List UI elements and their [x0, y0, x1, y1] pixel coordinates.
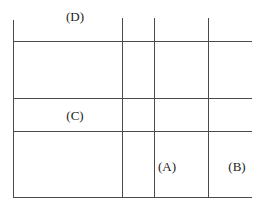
vertical-line-1 [13, 20, 14, 198]
vertical-line-4 [208, 18, 209, 198]
grid-diagram: (D) (C) (A) (B) [0, 0, 268, 208]
label-d: (D) [66, 10, 84, 23]
horizontal-line-4 [13, 197, 252, 198]
vertical-line-2 [122, 18, 123, 198]
label-a: (A) [158, 160, 176, 173]
horizontal-line-2 [13, 98, 252, 99]
label-b: (B) [228, 160, 245, 173]
vertical-line-3 [154, 18, 155, 198]
horizontal-line-3 [13, 131, 252, 132]
horizontal-line-1 [13, 41, 252, 42]
label-c: (C) [66, 109, 83, 122]
